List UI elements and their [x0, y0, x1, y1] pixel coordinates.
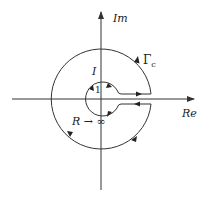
arrow-bottom-slit-icon [134, 102, 140, 107]
inner-radius-label: 1 [95, 85, 101, 95]
keyhole-contour-diagram: Im Re Γc I 1 R → ∞ [0, 0, 203, 197]
arrow-top-slit-icon [136, 92, 142, 97]
real-axis-label: Re [181, 107, 197, 120]
contour-label: Γc [143, 53, 156, 69]
outer-radius-label: R → ∞ [71, 115, 106, 128]
imaginary-axis-label: Im [112, 12, 128, 25]
inner-path-label: I [91, 65, 97, 78]
